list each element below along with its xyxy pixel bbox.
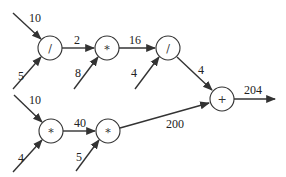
edge-label: 200 xyxy=(166,117,184,131)
edge-label: 16 xyxy=(129,33,141,47)
edge-label: 8 xyxy=(75,66,81,80)
edge-label: 204 xyxy=(244,83,262,97)
edge-label: 4 xyxy=(131,66,137,80)
node-divide-1: / xyxy=(38,36,62,60)
edge-label: 5 xyxy=(76,150,82,164)
edge-label: 10 xyxy=(29,93,41,107)
edge-label: 4 xyxy=(198,63,204,77)
edge-mul3-to-add xyxy=(120,103,209,128)
edge-label: 10 xyxy=(29,11,41,25)
edge-div2-to-add xyxy=(177,57,212,90)
node-multiply-2: * xyxy=(39,119,63,143)
node-multiply-1: * xyxy=(95,36,119,60)
edge-label: 4 xyxy=(18,151,24,165)
operator-label: * xyxy=(105,126,111,139)
edge-label: 40 xyxy=(74,116,86,130)
node-multiply-3: * xyxy=(96,119,120,143)
edge-label: 2 xyxy=(74,33,80,47)
node-divide-2: / xyxy=(156,36,180,60)
operator-label: * xyxy=(104,43,110,56)
edge-in-4-to-div2 xyxy=(135,57,159,89)
node-add: + xyxy=(210,87,234,111)
operator-label: / xyxy=(166,42,170,55)
edge-label: 5 xyxy=(18,69,24,83)
operator-label: / xyxy=(48,42,52,55)
operator-label: * xyxy=(48,126,54,139)
computational-graph: 10 5 2 8 16 4 4 10 4 40 5 200 204 / * / … xyxy=(0,0,286,177)
operator-label: + xyxy=(217,93,226,106)
